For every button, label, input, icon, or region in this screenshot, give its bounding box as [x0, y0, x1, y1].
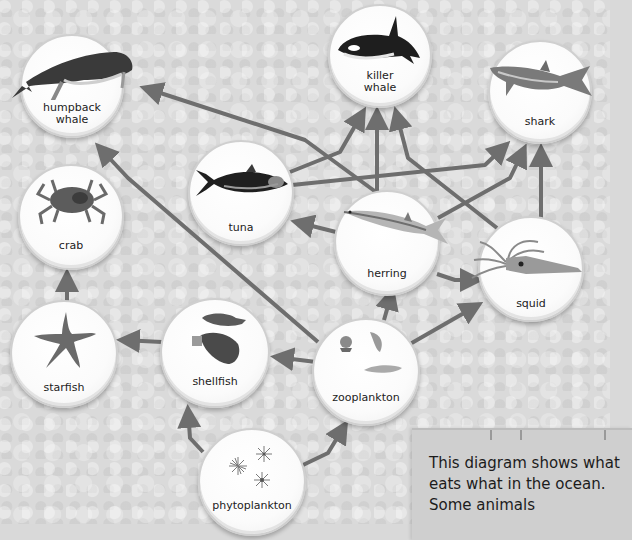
- caption-text: This diagram shows what eats what in the…: [429, 453, 629, 516]
- node-phytoplankton: phytoplankton: [198, 428, 306, 536]
- killer-whale-label: killer whale: [330, 70, 430, 94]
- node-shellfish: shellfish: [160, 298, 270, 408]
- arrow-herring-to-tuna: [296, 222, 336, 232]
- caption-panel: This diagram shows what eats what in the…: [412, 428, 632, 540]
- panel-tick: [490, 430, 492, 440]
- killer-whale-icon: [334, 12, 424, 67]
- shellfish-icon: [190, 312, 250, 368]
- label-line-2: whale: [330, 82, 430, 94]
- shark-icon: [488, 60, 598, 105]
- node-killer-whale: killer whale: [328, 4, 432, 108]
- node-tuna: tuna: [188, 140, 294, 246]
- zooplankton-icon: [334, 330, 404, 380]
- squid-label: squid: [480, 298, 582, 310]
- herring-icon: [342, 204, 452, 244]
- panel-tick: [604, 430, 606, 440]
- panel-tick: [520, 430, 522, 440]
- shellfish-label: shellfish: [162, 376, 268, 388]
- node-crab: crab: [18, 164, 124, 270]
- arrow-tuna-to-shark: [292, 145, 506, 185]
- node-squid: squid: [478, 216, 584, 322]
- squid-icon: [466, 232, 586, 292]
- node-shark: shark: [488, 40, 592, 144]
- node-starfish: starfish: [10, 300, 118, 408]
- tuna-label: tuna: [190, 222, 292, 234]
- crab-label: crab: [20, 240, 122, 252]
- arrow-shellfish-to-starfish: [122, 340, 162, 342]
- arrow-zooplankton-to-herring: [384, 292, 392, 320]
- phytoplankton-label: phytoplankton: [200, 500, 304, 512]
- arrow-zooplankton-to-squid: [410, 305, 478, 344]
- shark-label: shark: [490, 116, 590, 128]
- tuna-icon: [194, 162, 290, 202]
- arrow-phytoplankton-to-shellfish: [188, 410, 203, 452]
- starfish-icon: [32, 310, 98, 372]
- node-herring: herring: [334, 190, 440, 296]
- label-line-2: whale: [22, 114, 122, 126]
- crab-icon: [34, 176, 110, 228]
- arrow-zooplankton-to-shellfish: [276, 357, 316, 362]
- arrow-tuna-to-killer-whale: [290, 112, 363, 172]
- node-humpback-whale: humpback whale: [20, 34, 124, 138]
- herring-label: herring: [336, 268, 438, 280]
- zooplankton-label: zooplankton: [314, 392, 418, 404]
- starfish-label: starfish: [12, 382, 116, 394]
- phytoplankton-icon: [224, 444, 284, 492]
- humpback-whale-label: humpback whale: [22, 102, 122, 126]
- node-zooplankton: zooplankton: [312, 318, 420, 426]
- arrow-phytoplankton-to-zooplankton: [303, 425, 345, 465]
- humpback-whale-icon: [4, 40, 134, 100]
